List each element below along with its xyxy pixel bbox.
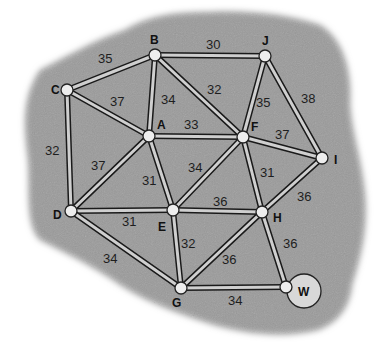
node-J	[259, 50, 271, 62]
edge-weight-label: 32	[45, 143, 59, 158]
node-A	[143, 130, 155, 142]
edge-A-F	[149, 136, 243, 137]
edge-weight-label: 37	[110, 94, 124, 109]
node-D	[65, 205, 77, 217]
edge-weight-label: 37	[91, 158, 105, 173]
edge-weight-label: 34	[188, 160, 202, 175]
node-B	[149, 49, 161, 61]
node-label-B: B	[150, 33, 159, 47]
edge-weight-label: 33	[184, 117, 198, 132]
edge-weight-label: 37	[275, 127, 289, 142]
edge-weight-label: 35	[98, 51, 112, 66]
node-C	[61, 84, 73, 96]
node-label-G: G	[172, 296, 181, 310]
edge-weight-label: 30	[206, 37, 220, 52]
edge-weight-label: 35	[256, 95, 270, 110]
edge-weight-label: 34	[103, 251, 117, 266]
edge-D-E	[71, 210, 173, 211]
graph-diagram: 3530373432353833373237313431313636343236…	[0, 0, 375, 343]
edge-weight-label: 36	[213, 194, 227, 209]
node-G	[175, 282, 187, 294]
node-label-I: I	[334, 153, 337, 167]
node-label-C: C	[51, 83, 60, 97]
node-H	[256, 206, 268, 218]
node-label-J: J	[262, 34, 269, 48]
edge-weight-label: 31	[122, 214, 136, 229]
edge-weight-label: 36	[222, 252, 236, 267]
edge-weight-label: 32	[181, 236, 195, 251]
node-label-D: D	[53, 208, 62, 222]
node-label-W: W	[298, 285, 310, 299]
node-label-E: E	[158, 220, 166, 234]
node-label-A: A	[157, 118, 166, 132]
node-label-H: H	[273, 211, 282, 225]
edge-weight-label: 31	[142, 173, 156, 188]
edge-weight-label: 32	[207, 82, 221, 97]
edge-weight-label: 34	[161, 92, 175, 107]
edge-weight-label: 34	[228, 293, 242, 308]
edge-C-D	[67, 90, 71, 211]
edge-G-W	[181, 287, 286, 288]
edge-E-H	[173, 210, 262, 212]
edge-B-J	[155, 55, 265, 56]
edge-weight-label: 38	[301, 91, 315, 106]
edge-weight-label: 36	[283, 236, 297, 251]
edge-weight-label: 31	[260, 165, 274, 180]
node-F	[237, 131, 249, 143]
node-I	[316, 152, 328, 164]
node-W	[280, 281, 292, 293]
node-E	[167, 204, 179, 216]
edge-weight-label: 36	[297, 189, 311, 204]
node-label-F: F	[251, 120, 258, 134]
